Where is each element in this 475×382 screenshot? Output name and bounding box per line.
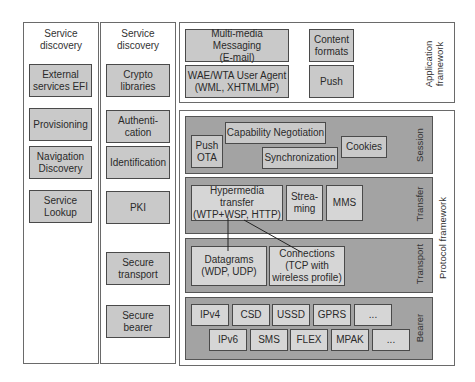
text: Authenti- xyxy=(118,115,158,127)
text: (WDP, UDP) xyxy=(201,266,256,278)
text: services EFI xyxy=(33,81,88,93)
box-streaming: Strea-ming xyxy=(286,185,323,221)
text: IPv6 xyxy=(218,334,238,346)
text: Synchronization xyxy=(264,152,335,164)
text: Content xyxy=(314,34,349,46)
box-provisioning: Provisioning xyxy=(29,108,92,141)
text: FLEX xyxy=(296,334,321,346)
bearer-more-1: ... xyxy=(354,304,392,326)
bearer-label: Bearer xyxy=(414,303,426,353)
text: Multi-media Messaging xyxy=(186,28,288,52)
bearer-mpak: MPAK xyxy=(331,329,369,351)
box-secure-bearer: Securebearer xyxy=(106,305,170,338)
text: Discovery xyxy=(37,163,84,175)
text: MMS xyxy=(333,197,356,209)
text: External xyxy=(33,69,88,81)
column-1-title: Service discovery xyxy=(23,28,99,52)
box-connections: Connections(TCP withwireless profile) xyxy=(269,246,345,286)
box-crypto-libraries: Cryptolibraries xyxy=(106,64,170,97)
text: (WML, XHTMLMP) xyxy=(188,82,286,94)
text: wireless profile) xyxy=(272,272,341,284)
text: Connections xyxy=(272,248,341,260)
box-cookies: Cookies xyxy=(341,136,387,158)
text: WAE/WTA User Agent xyxy=(188,70,286,82)
box-content-formats: Contentformats xyxy=(309,29,354,62)
bearer-ussd: USSD xyxy=(272,304,310,326)
box-external-services-efi: Externalservices EFI xyxy=(29,64,92,97)
box-push-ota: PushOTA xyxy=(191,135,223,168)
text: ... xyxy=(387,334,395,346)
bearer-gprs: GPRS xyxy=(313,304,351,326)
text: SMS xyxy=(258,334,280,346)
text: MPAK xyxy=(336,334,364,346)
text: Push xyxy=(320,76,343,88)
text: Service xyxy=(44,195,77,207)
box-identification: Identification xyxy=(106,146,170,179)
text: libraries xyxy=(120,81,155,93)
box-authentication: Authenti-cation xyxy=(106,110,170,143)
bearer-ipv6: IPv6 xyxy=(209,329,247,351)
text: cation xyxy=(118,127,158,139)
box-datagrams: Datagrams(WDP, UDP) xyxy=(191,246,267,286)
bearer-csd: CSD xyxy=(232,304,270,326)
bearer-more-2: ... xyxy=(372,329,410,351)
text: CSD xyxy=(240,309,261,321)
text: Capability Negotiation xyxy=(227,127,324,139)
protocol-framework-label: Protocol framework xyxy=(437,188,449,288)
box-secure-transport: Securetransport xyxy=(106,252,170,285)
column-1-title-line2: discovery xyxy=(23,40,99,52)
text: Push xyxy=(196,140,219,152)
text: formats xyxy=(314,46,349,58)
box-multimedia-messaging: Multi-media Messaging(E-mail) xyxy=(185,29,289,62)
text: Crypto xyxy=(120,69,155,81)
text: (E-mail) xyxy=(186,52,288,64)
column-2-title-line1: Service xyxy=(100,28,176,40)
text: ... xyxy=(369,309,377,321)
text: OTA xyxy=(196,152,219,164)
text: Secure xyxy=(118,257,157,269)
bearer-ipv4: IPv4 xyxy=(191,304,229,326)
text: Navigation xyxy=(37,151,84,163)
text: PKI xyxy=(130,202,146,214)
text: Provisioning xyxy=(33,119,87,131)
column-2-title-line2: discovery xyxy=(100,40,176,52)
transfer-label: Transfer xyxy=(414,179,426,229)
box-service-lookup: ServiceLookup xyxy=(29,190,92,223)
application-framework-label: Application framework xyxy=(423,29,447,99)
text: Cookies xyxy=(346,141,382,153)
bearer-sms: SMS xyxy=(250,329,288,351)
text: GPRS xyxy=(318,309,346,321)
text: Lookup xyxy=(44,207,77,219)
column-1-title-line1: Service xyxy=(23,28,99,40)
text: bearer xyxy=(122,322,154,334)
box-pki: PKI xyxy=(106,191,170,224)
session-label: Session xyxy=(414,120,426,170)
transport-label: Transport xyxy=(414,239,426,289)
text: Secure xyxy=(122,310,154,322)
box-push: Push xyxy=(309,65,354,98)
box-synchronization: Synchronization xyxy=(262,147,338,169)
box-mms: MMS xyxy=(326,185,363,221)
box-capability-negotiation: Capability Negotiation xyxy=(225,122,326,144)
text: framework xyxy=(434,29,445,99)
text: ming xyxy=(291,203,318,215)
text: IPv4 xyxy=(200,309,220,321)
box-hypermedia-transfer: Hypermedia transfer(WTP+WSP, HTTP) xyxy=(191,185,283,221)
text: Hypermedia transfer xyxy=(192,185,282,209)
text: Datagrams xyxy=(201,254,256,266)
text: transport xyxy=(118,269,157,281)
bearer-flex: FLEX xyxy=(290,329,328,351)
text: USSD xyxy=(277,309,305,321)
box-wae-wta-user-agent: WAE/WTA User Agent(WML, XHTMLMP) xyxy=(185,65,289,98)
text: (WTP+WSP, HTTP) xyxy=(192,209,282,221)
text: Strea- xyxy=(291,191,318,203)
text: (TCP with xyxy=(272,260,341,272)
box-navigation-discovery: NavigationDiscovery xyxy=(29,146,92,179)
text: Application xyxy=(423,29,434,99)
column-2-title: Service discovery xyxy=(100,28,176,52)
text: Identification xyxy=(110,157,166,169)
